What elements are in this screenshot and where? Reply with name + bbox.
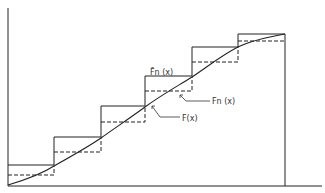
true-cdf-curve — [8, 34, 285, 185]
cdf-label: F(x) — [182, 114, 198, 123]
lower-step-segment — [54, 138, 101, 152]
lower-step-segment — [192, 47, 238, 62]
cdf-leader — [152, 106, 180, 117]
lower-step-segment — [101, 107, 145, 122]
lower-step-label: Fn (x) — [212, 97, 235, 106]
cdf-bounds-diagram: F̄n (x) Fn (x) F(x) — [0, 0, 325, 193]
lower-step-leader — [180, 95, 210, 101]
upper-step-label: F̄n (x) — [150, 67, 173, 77]
lower-step-segment — [145, 77, 192, 91]
upper-step-function — [8, 34, 285, 186]
